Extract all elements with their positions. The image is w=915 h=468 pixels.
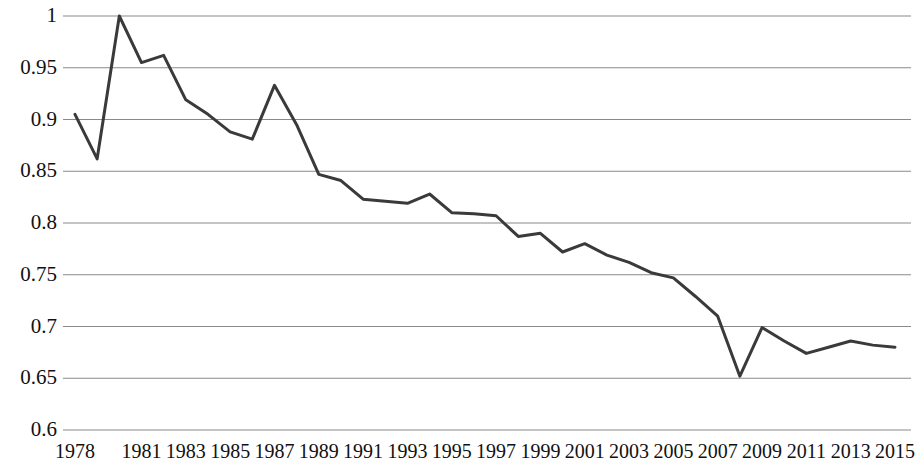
chart-plot-area xyxy=(0,0,915,468)
y-axis-tick-label: 0.8 xyxy=(31,212,57,233)
y-axis-tick-label: 0.95 xyxy=(20,57,57,78)
x-axis-tick-label: 1978 xyxy=(45,441,105,461)
line-chart: 0.60.650.70.750.80.850.90.951 1978198119… xyxy=(0,0,915,468)
y-axis-tick-label: 0.75 xyxy=(20,264,57,285)
data-line xyxy=(75,16,895,376)
y-axis-tick-label: 1 xyxy=(47,5,58,26)
y-axis-tick-label: 0.65 xyxy=(20,367,57,388)
y-axis-tick-label: 0.85 xyxy=(20,160,57,181)
y-axis-tick-label: 0.9 xyxy=(31,109,57,130)
y-axis-tick-label: 0.6 xyxy=(31,419,57,440)
gridline-group xyxy=(63,16,911,430)
data-line-group xyxy=(75,16,895,376)
y-axis-tick-label: 0.7 xyxy=(31,316,57,337)
x-axis-tick-label: 2015 xyxy=(865,441,915,461)
